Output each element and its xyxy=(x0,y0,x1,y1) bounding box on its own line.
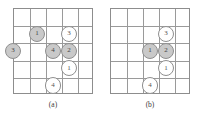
panel-b-caption: (b) xyxy=(110,100,190,109)
figure-two-grid-panels: 1334214(a)31214(b) xyxy=(0,0,203,118)
token-a-3-top: 3 xyxy=(61,26,77,42)
token-b-4: 4 xyxy=(142,77,158,93)
grid-line-vertical xyxy=(175,9,176,93)
token-a-4-bottom: 4 xyxy=(45,77,61,93)
grid-line-horizontal xyxy=(111,26,189,27)
panel-a: 1334214 xyxy=(13,8,93,94)
grid-line-vertical xyxy=(30,9,31,93)
panel-a-caption: (a) xyxy=(13,100,93,109)
panel-b: 31214 xyxy=(110,8,190,94)
grid-line-horizontal xyxy=(111,61,189,62)
grid-line-horizontal xyxy=(14,26,92,27)
grid-line-vertical xyxy=(78,9,79,93)
token-b-3: 3 xyxy=(158,26,174,42)
token-a-1: 1 xyxy=(29,26,45,42)
grid-line-horizontal xyxy=(14,61,92,62)
grid-line-vertical xyxy=(127,9,128,93)
